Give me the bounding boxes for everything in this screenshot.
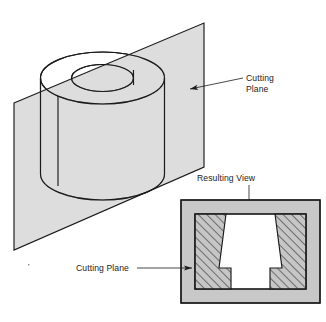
figure-root: Cutting Plane Resulting View: [0, 0, 326, 322]
resulting-sectional-view: [181, 200, 320, 303]
cutting-plane-bottom-callout: Cutting Plane: [76, 263, 192, 273]
technical-illustration: Cutting Plane Resulting View: [0, 0, 326, 322]
cutting-plane-bottom-label: Cutting Plane: [76, 263, 129, 273]
scan-speck: [28, 264, 29, 265]
cutting-plane-top-label-line1: Cutting: [246, 73, 274, 83]
pictorial-assembly: [14, 23, 204, 250]
cutting-plane-quad: [14, 23, 204, 250]
resulting-view-label: Resulting View: [197, 173, 256, 183]
cutting-plane-top-label-line2: Plane: [246, 84, 269, 94]
